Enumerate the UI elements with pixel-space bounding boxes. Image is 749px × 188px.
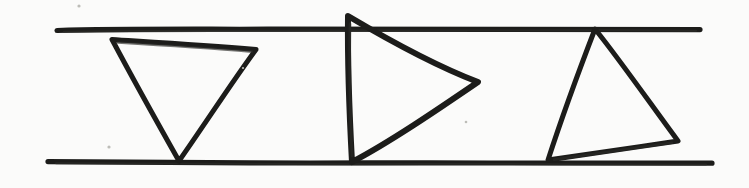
paper-speck xyxy=(242,67,244,69)
paper-speck xyxy=(77,4,80,7)
triangle-right-shape xyxy=(348,16,478,162)
paper-speck xyxy=(465,121,468,124)
triangle-tilted-base-edge-texture xyxy=(554,143,672,160)
triangle-tilted-shape xyxy=(548,29,678,160)
sketch-svg xyxy=(0,0,749,188)
bottom-rule-line-texture xyxy=(56,163,706,164)
triangle-down-shape xyxy=(112,40,256,162)
paper-speck xyxy=(107,145,110,148)
sketch-canvas xyxy=(0,0,749,188)
